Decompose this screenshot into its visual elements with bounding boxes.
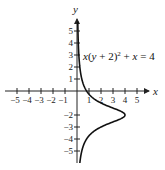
equation-label: x(y + 2)2 + x = 4 [82, 50, 155, 63]
y-tick-label: 4 [69, 38, 74, 48]
x-tick-label: 4 [123, 95, 128, 105]
y-tick-label: 2 [69, 62, 74, 72]
y-tick-label: 1 [69, 74, 74, 84]
axes [5, 19, 149, 163]
y-tick-label: −2 [63, 110, 73, 120]
x-axis-label: x [152, 85, 158, 97]
y-tick-label: −4 [63, 134, 73, 144]
y-tick-label: −3 [63, 122, 73, 132]
x-tick-label: 5 [135, 95, 140, 105]
y-axis-label: y [72, 3, 78, 15]
y-tick-label: 3 [69, 50, 74, 60]
x-tick-label: −3 [34, 95, 44, 105]
x-tick-label: −4 [22, 95, 32, 105]
x-tick-label: −1 [58, 95, 68, 105]
x-tick-label: −5 [10, 95, 20, 105]
x-tick-label: −2 [46, 95, 56, 105]
y-tick-label: −5 [63, 146, 73, 156]
x-tick-label: 3 [111, 95, 116, 105]
y-tick-label: 5 [69, 26, 74, 36]
chart: −5−4−3−2−112345 54321−2−3−4−5 x y x(y + … [0, 0, 165, 170]
